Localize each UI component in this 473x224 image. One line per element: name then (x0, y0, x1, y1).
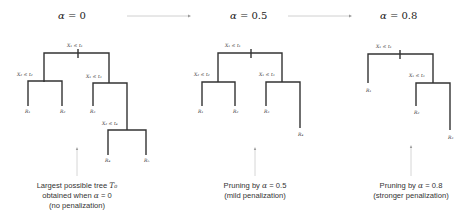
caption-line: Pruning by α = 0.8 (361, 181, 461, 191)
arrow-right-icon (127, 15, 191, 18)
split-label: X₂ ≤ t₂ (193, 72, 210, 77)
leaf-label: R₄ (104, 158, 110, 163)
split-label: X₁ ≤ t₃ (258, 72, 275, 77)
caption-full-tree: Largest possible tree T₀ obtained when α… (27, 181, 127, 211)
split-label: X₁ ≤ t₁ (224, 43, 241, 48)
arrow-up-icon (254, 147, 256, 176)
split-label: X₁ ≤ t₃ (85, 74, 102, 79)
arrow-up-icon (76, 147, 78, 176)
leaf-label: R₁ (24, 109, 30, 114)
arrow-up-icon (410, 145, 412, 176)
leaf-label: R₂ (413, 110, 419, 115)
caption-strong-pruning: Pruning by α = 0.8 (stronger penalizatio… (361, 181, 461, 201)
tree-mild-pruned (202, 49, 300, 128)
caption-line: (mild penalization) (205, 191, 305, 201)
header-alpha-05: α = 0.5 (230, 10, 267, 21)
caption-mild-pruning: Pruning by α = 0.5 (mild penalization) (205, 181, 305, 201)
split-label: X₁ ≤ t₁ (375, 44, 392, 49)
split-label: X₂ ≤ t₄ (101, 121, 118, 126)
leaf-label: R₁ (197, 109, 203, 114)
caption-line: obtained when α = 0 (27, 191, 127, 201)
leaf-label: R₃ (263, 109, 269, 114)
leaf-label: R₄ (297, 132, 303, 137)
leaf-label: R₃ (447, 135, 453, 140)
leaf-label: R₂ (232, 109, 238, 114)
caption-line: (no penalization) (27, 201, 127, 211)
leaf-label: R₁ (365, 88, 371, 93)
header-alpha-08: α = 0.8 (380, 10, 417, 21)
header-alpha-0: α = 0 (58, 10, 86, 21)
split-label: X₂ ≤ t₂ (16, 72, 33, 77)
arrow-right-icon (288, 15, 352, 18)
tree-full (28, 49, 146, 155)
split-label: X₁ ≤ t₁ (66, 43, 83, 48)
leaf-label: R₅ (143, 158, 149, 163)
caption-line: Pruning by α = 0.5 (205, 181, 305, 191)
tree-strong-pruned (368, 50, 450, 130)
caption-line: Largest possible tree T₀ (27, 181, 127, 191)
split-label: X₁ ≤ t₃ (408, 73, 425, 78)
caption-line: (stronger penalization) (361, 191, 461, 201)
leaf-label: R₃ (89, 109, 95, 114)
leaf-label: R₂ (59, 109, 65, 114)
